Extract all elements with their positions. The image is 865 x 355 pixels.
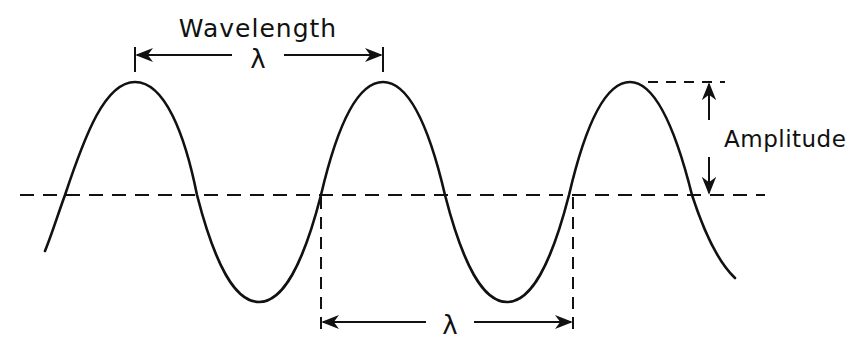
amplitude-label: Amplitude [724, 126, 846, 152]
wavelength-symbol-bottom: λ [442, 310, 457, 340]
wavelength-symbol-top: λ [250, 44, 265, 74]
wave-diagram: Wavelength λ Amplitude λ [0, 0, 865, 355]
wavelength-title: Wavelength [179, 14, 337, 43]
sine-wave [45, 82, 735, 302]
